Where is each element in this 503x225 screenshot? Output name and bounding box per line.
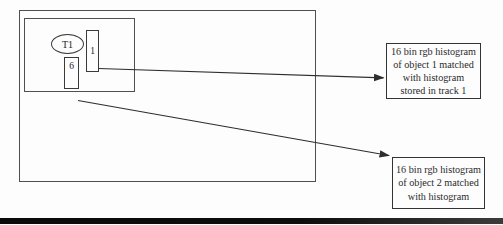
histogram-box-2-line: of object 2 matched xyxy=(398,176,479,189)
track-ellipse: T1 xyxy=(51,34,84,54)
figure-canvas: T1 1 6 16 bin rgb histogram of object 1 … xyxy=(0,0,503,225)
object-rect-6: 6 xyxy=(64,57,79,89)
histogram-box-2-line: with histogram xyxy=(408,190,469,203)
histogram-box-1-line: stored in track 1 xyxy=(401,84,467,97)
histogram-box-1-line: 16 bin rgb histogram xyxy=(391,45,476,58)
bottom-rule xyxy=(0,218,503,224)
inner-frame xyxy=(24,18,135,92)
object-rect-6-label: 6 xyxy=(69,61,74,71)
histogram-box-1: 16 bin rgb histogram of object 1 matched… xyxy=(386,43,481,99)
histogram-box-2-line: 16 bin rgb histogram xyxy=(396,163,481,176)
object-rect-1: 1 xyxy=(86,30,99,72)
histogram-box-1-line: of object 1 matched xyxy=(393,58,474,71)
track-ellipse-label: T1 xyxy=(62,39,73,50)
object-rect-1-label: 1 xyxy=(90,46,95,56)
histogram-box-2: 16 bin rgb histogram of object 2 matched… xyxy=(392,157,485,209)
histogram-box-1-line: with histogram xyxy=(403,71,464,84)
